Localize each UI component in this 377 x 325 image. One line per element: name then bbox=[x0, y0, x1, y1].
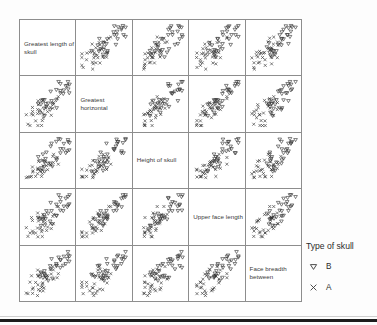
scatter-panel-r3-c4 bbox=[189, 133, 245, 189]
variable-label-3: Height of skull bbox=[137, 156, 189, 164]
scatter-panel-r4-c5 bbox=[246, 189, 302, 245]
scatter-panel-r4-c2 bbox=[76, 189, 132, 245]
scatter-panel-r2-c1 bbox=[20, 76, 76, 132]
legend-title: Type of skull bbox=[306, 241, 376, 251]
legend-item-a: A bbox=[306, 281, 376, 294]
scatter-panel-r2-c5 bbox=[246, 76, 302, 132]
cross-x-icon bbox=[306, 283, 320, 292]
scatter-panel-r1-c5 bbox=[246, 20, 302, 76]
scatter-panel-r3-c2 bbox=[76, 133, 132, 189]
scatter-points bbox=[76, 246, 131, 301]
legend: Type of skull B A bbox=[306, 241, 376, 302]
scatter-points bbox=[246, 76, 301, 131]
scatter-points bbox=[189, 76, 244, 131]
scatter-matrix-grid: Greatest length of skullGreatest horizon… bbox=[19, 19, 302, 302]
diagonal-panel-2: Greatest horizontal bbox=[76, 76, 132, 132]
footer-hairline bbox=[0, 316, 377, 317]
diagonal-panel-1: Greatest length of skull bbox=[20, 20, 76, 76]
variable-label-4: Upper face length bbox=[193, 213, 245, 221]
scatter-points bbox=[76, 189, 131, 244]
scatter-panel-r1-c4 bbox=[189, 20, 245, 76]
variable-label-5: Face breadth between bbox=[250, 265, 302, 281]
scatter-panel-r5-c2 bbox=[76, 246, 132, 302]
variable-label-2: Greatest horizontal bbox=[80, 96, 132, 112]
legend-label-a: A bbox=[326, 283, 331, 292]
scatter-panel-r1-c2 bbox=[76, 20, 132, 76]
footer-rule bbox=[0, 319, 377, 322]
scatter-panel-r3-c5 bbox=[246, 133, 302, 189]
scatter-panel-r2-c4 bbox=[189, 76, 245, 132]
scatter-points bbox=[133, 189, 188, 244]
scatter-points bbox=[133, 76, 188, 131]
scatter-panel-r4-c3 bbox=[133, 189, 189, 245]
scatter-points bbox=[246, 133, 301, 188]
scatter-points bbox=[20, 246, 75, 301]
scatter-panel-r4-c1 bbox=[20, 189, 76, 245]
scatter-points bbox=[20, 133, 75, 188]
scatter-points bbox=[189, 133, 244, 188]
scatter-panel-r5-c3 bbox=[133, 246, 189, 302]
scatter-panel-r2-c3 bbox=[133, 76, 189, 132]
scatter-points bbox=[246, 189, 301, 244]
legend-item-b: B bbox=[306, 260, 376, 273]
triangle-down-icon bbox=[306, 262, 320, 271]
scatter-points bbox=[133, 20, 188, 75]
scatter-points bbox=[76, 20, 131, 75]
diagonal-panel-4: Upper face length bbox=[189, 189, 245, 245]
scatter-points bbox=[133, 246, 188, 301]
scatter-panel-r5-c4 bbox=[189, 246, 245, 302]
diagonal-panel-3: Height of skull bbox=[133, 133, 189, 189]
scatter-points bbox=[20, 76, 75, 131]
diagonal-panel-5: Face breadth between bbox=[246, 246, 302, 302]
scatter-points bbox=[246, 20, 301, 75]
scatter-panel-r5-c1 bbox=[20, 246, 76, 302]
scatterplot-matrix-figure: Greatest length of skullGreatest horizon… bbox=[0, 0, 377, 325]
variable-label-1: Greatest length of skull bbox=[24, 40, 76, 56]
scatter-points bbox=[189, 246, 244, 301]
scatter-points bbox=[189, 20, 244, 75]
scatter-panel-r3-c1 bbox=[20, 133, 76, 189]
scatter-points bbox=[20, 189, 75, 244]
legend-label-b: B bbox=[326, 262, 331, 271]
scatter-points bbox=[76, 133, 131, 188]
scatter-panel-r1-c3 bbox=[133, 20, 189, 76]
